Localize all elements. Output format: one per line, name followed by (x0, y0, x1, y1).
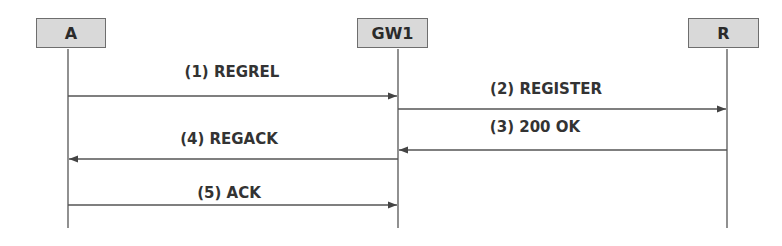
entity-gw1-box: GW1 (357, 18, 428, 48)
message-4-label: (4) REGACK (180, 130, 278, 148)
entity-r-label: R (717, 24, 729, 43)
entity-a-label: A (65, 24, 77, 43)
entity-r-box: R (688, 18, 759, 48)
message-1-label: (1) REGREL (185, 63, 280, 81)
message-5-label: (5) ACK (197, 184, 261, 202)
entity-gw1-label: GW1 (372, 24, 414, 43)
lifelines (68, 49, 727, 228)
entity-a-box: A (36, 18, 106, 48)
message-3-label: (3) 200 OK (490, 118, 580, 136)
message-2-label: (2) REGISTER (490, 80, 602, 98)
